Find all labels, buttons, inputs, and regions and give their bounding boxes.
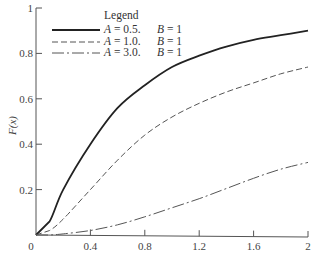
legend: Legend A = 0.5.B = 1A = 1.0.B = 1A = 3.0… — [52, 9, 182, 58]
y-tick-label: 0.4 — [19, 138, 33, 150]
series-dashed-line — [36, 67, 308, 235]
line-chart: 00.40.81.21.620.20.40.60.81F(x) Legend A… — [0, 0, 317, 254]
y-axis-label: F(x) — [6, 116, 19, 136]
y-tick-label: 1 — [28, 2, 34, 14]
y-tick-label: 0.2 — [19, 184, 33, 196]
x-tick-label: 2 — [305, 240, 311, 252]
legend-title: Legend — [104, 9, 139, 22]
legend-entry-b-label: B = 1 — [157, 23, 182, 35]
legend-entry-label: A = 0.5. — [103, 23, 141, 35]
x-tick-label: 0.8 — [138, 240, 152, 252]
legend-entry-label: A = 3.0. — [103, 46, 141, 58]
y-tick-label: 0.6 — [19, 93, 33, 105]
x-tick-label: 1.6 — [247, 240, 261, 252]
y-tick-label: 0.8 — [19, 47, 33, 59]
series-solid-line — [36, 31, 308, 235]
series-dash-dot-line — [36, 162, 308, 235]
x-tick-label: 0.4 — [84, 240, 98, 252]
legend-entry-b-label: B = 1 — [157, 46, 182, 58]
x-tick-label: 1.2 — [192, 240, 206, 252]
x-axis — [36, 235, 308, 237]
curves — [36, 31, 308, 235]
x-tick-label: 0 — [28, 240, 34, 252]
